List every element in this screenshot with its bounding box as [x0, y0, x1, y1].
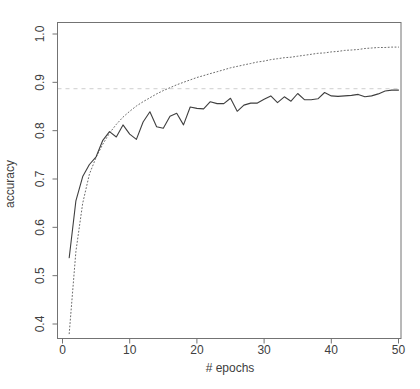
solid-curve-line	[69, 90, 398, 258]
y-tick-label: 1.0	[33, 25, 47, 42]
y-tick-label: 0.6	[33, 219, 47, 236]
x-tick-label: 20	[190, 343, 204, 357]
y-tick-label: 0.5	[33, 267, 47, 284]
y-tick-label: 0.7	[33, 170, 47, 187]
x-tick-label: 30	[257, 343, 271, 357]
plot-box	[58, 23, 402, 339]
x-axis-label: # epochs	[206, 361, 255, 375]
x-tick-label: 0	[59, 343, 66, 357]
x-tick-label: 10	[123, 343, 137, 357]
y-tick-label: 0.9	[33, 74, 47, 91]
y-tick-label: 0.8	[33, 122, 47, 139]
y-axis-label: accuracy	[3, 160, 17, 208]
y-tick-label: 0.4	[33, 315, 47, 332]
accuracy-vs-epochs-chart: 010203040500.40.50.60.70.80.91.0 # epoch…	[0, 0, 420, 389]
x-tick-label: 40	[325, 343, 339, 357]
dotted-curve-line	[69, 47, 398, 334]
chart-canvas: 010203040500.40.50.60.70.80.91.0 # epoch…	[0, 0, 420, 389]
x-tick-label: 50	[392, 343, 406, 357]
